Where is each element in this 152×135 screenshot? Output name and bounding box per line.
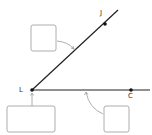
upper-point-label: J: [100, 10, 102, 17]
side-connector-arrow: [86, 92, 103, 114]
lower-point-label: C: [128, 93, 133, 100]
vertex-label-box: [7, 106, 55, 132]
vertex-point: [30, 88, 34, 92]
upper-ray-point: [103, 22, 107, 26]
side-label-box: [104, 106, 129, 132]
angle-diagram: [0, 0, 152, 135]
vertex-label: L: [19, 87, 23, 94]
ray-label-box: [31, 25, 56, 51]
